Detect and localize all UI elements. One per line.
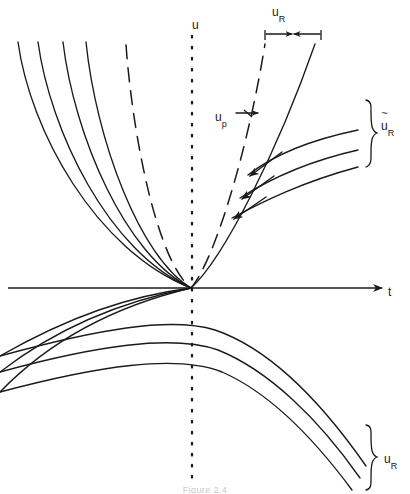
u-p-label: up	[215, 108, 227, 127]
lower-right-branch-3	[0, 363, 352, 490]
lower-right-branch-2	[0, 343, 360, 478]
curve-group-right-fan	[232, 130, 358, 218]
u-p-arrow	[236, 110, 258, 117]
figure-caption: Figure 2.4	[0, 485, 410, 494]
u-hat-R-label: ^ u R	[272, 3, 285, 22]
u-tilde-R-label: ~ u R	[381, 117, 394, 136]
u-R-label: uR	[384, 450, 397, 469]
tilde-accent-icon: ~	[381, 108, 387, 119]
figure-container: u t up ^ u R ~ u R uR Figure 2.4	[0, 0, 410, 494]
u-R-span	[366, 425, 377, 490]
left-branch-3	[63, 42, 191, 288]
diagram-canvas	[0, 0, 410, 494]
right-branch-dashed	[191, 44, 265, 288]
curve-group-lower	[0, 288, 366, 490]
left-branch-1	[18, 42, 191, 288]
right-branch-outer	[191, 44, 315, 288]
perturbation-arrows	[234, 152, 282, 219]
left-branch-dashed	[126, 45, 191, 288]
u-tilde-R-span	[366, 100, 377, 167]
right-fan-2	[240, 150, 358, 198]
u-hat-R-span	[265, 30, 321, 40]
lower-branch-2	[0, 288, 191, 372]
curve-group-left-upper	[18, 42, 191, 288]
horizontal-axis-label: t	[388, 283, 391, 299]
vertical-axis-label: u	[192, 16, 199, 32]
